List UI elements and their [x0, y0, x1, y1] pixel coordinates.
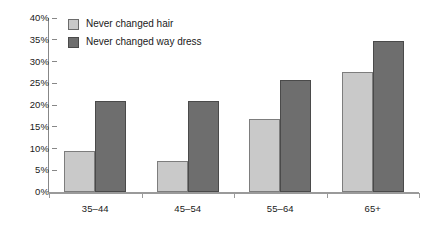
bar — [157, 161, 188, 192]
bar — [249, 119, 280, 192]
y-axis-tick-label: 5% — [35, 164, 49, 176]
x-axis-tick-mark — [49, 193, 50, 198]
x-axis-tick-mark — [142, 193, 143, 198]
bar — [280, 80, 311, 192]
y-axis-tick-label: 15% — [30, 121, 49, 133]
bar — [95, 101, 126, 192]
legend-item: Never changed way dress — [68, 33, 202, 51]
y-axis-tick-label: 0% — [35, 186, 49, 198]
legend-color-swatch — [68, 19, 79, 30]
y-axis-tick-label: 25% — [30, 77, 49, 89]
legend-color-swatch — [68, 37, 79, 48]
y-axis-tick-label: 40% — [30, 12, 49, 24]
x-axis-tick-mark — [327, 193, 328, 198]
y-axis-tick-label: 20% — [30, 99, 49, 111]
bar-group — [249, 18, 311, 192]
bar-chart: 0%5%10%15%20%25%30%35%40% 35–4445–5455–6… — [0, 0, 429, 229]
x-axis-tick-mark — [234, 193, 235, 198]
x-axis-category-label: 55–64 — [234, 203, 327, 214]
y-axis-tick-label: 30% — [30, 56, 49, 68]
bar — [342, 72, 373, 192]
bar — [64, 151, 95, 192]
bar — [188, 101, 219, 192]
y-axis-tick-label: 10% — [30, 143, 49, 155]
y-axis-tick-label: 35% — [30, 34, 49, 46]
x-axis-category-label: 35–44 — [49, 203, 142, 214]
legend-label: Never changed hair — [86, 18, 173, 30]
x-axis-tick-mark — [419, 193, 420, 198]
legend-label: Never changed way dress — [86, 36, 202, 48]
bar — [373, 41, 404, 192]
bar-group — [342, 18, 404, 192]
legend-item: Never changed hair — [68, 15, 202, 33]
chart-legend: Never changed hairNever changed way dres… — [68, 15, 202, 51]
x-axis-category-label: 65+ — [327, 203, 420, 214]
x-axis-category-label: 45–54 — [142, 203, 235, 214]
